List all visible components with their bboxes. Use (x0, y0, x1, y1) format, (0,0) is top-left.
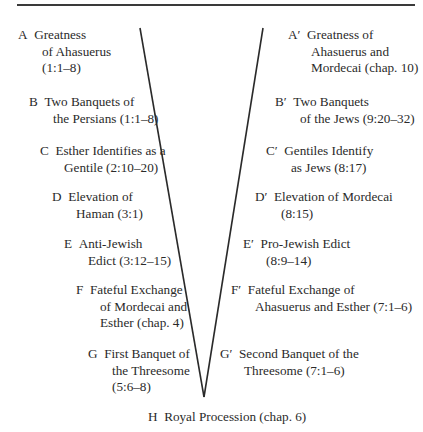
chiasm-item-E: E Anti-Jewish Edict (3:12–15) (64, 236, 171, 269)
item-title: Fateful Exchange (90, 282, 183, 297)
item-letter: D (52, 189, 62, 206)
item-letter: F (76, 282, 83, 299)
chiasm-item-F-prime: F′ Fateful Exchange of Ahasuerus and Est… (231, 282, 412, 315)
item-title: Two Banquets (293, 94, 369, 109)
item-letter: E′ (243, 236, 254, 253)
item-line2: the Persians (1:1–8) (29, 111, 158, 128)
item-letter: G (88, 346, 98, 363)
chiasm-item-F: F Fateful Exchange of Mordecai and Esthe… (76, 282, 187, 332)
item-reference: Esther (chap. 4) (76, 315, 187, 332)
chiasm-item-D-prime: D′ Elevation of Mordecai (8:15) (255, 189, 393, 222)
item-line2: Edict (3:12–15) (64, 253, 171, 270)
item-title: Anti-Jewish (79, 236, 143, 251)
item-line2: Haman (3:1) (52, 206, 143, 223)
item-title: Esther Identifies as a (55, 143, 165, 158)
item-reference: Mordecai (chap. 10) (288, 60, 418, 77)
item-line2: of Mordecai and (76, 299, 187, 316)
item-reference: (8:9–14) (243, 253, 350, 270)
item-title: Second Banquet of the (239, 346, 359, 361)
chiasm-item-G-prime: G′ Second Banquet of the Threesome (7:1–… (220, 346, 359, 379)
chiasm-item-A-prime: A′ Greatness of Ahasuerus and Mordecai (… (288, 27, 418, 77)
item-letter: B′ (275, 94, 287, 111)
chiasm-item-C: C Esther Identifies as a Gentile (2:10–2… (40, 143, 166, 176)
item-line2: Gentile (2:10–20) (40, 160, 166, 177)
item-letter: E (64, 236, 72, 253)
item-line2: of Ahasuerus (18, 44, 111, 61)
item-title: Royal Procession (chap. 6) (164, 409, 306, 424)
chiasm-item-C-prime: C′ Gentiles Identify as Jews (8:17) (266, 143, 373, 176)
item-title: Gentiles Identify (284, 143, 373, 158)
item-title: Pro-Jewish Edict (261, 236, 351, 251)
item-letter: G′ (220, 346, 232, 363)
item-title: Greatness (34, 27, 86, 42)
item-title: First Banquet of (104, 346, 190, 361)
item-letter: B (29, 94, 38, 111)
item-letter: A (18, 27, 28, 44)
item-title: Fateful Exchange of (248, 282, 355, 297)
item-letter: H (148, 409, 158, 426)
item-line2: as Jews (8:17) (266, 160, 373, 177)
item-letter: D′ (255, 189, 267, 206)
item-reference: (5:6–8) (88, 379, 190, 396)
item-title: Elevation of Mordecai (274, 189, 393, 204)
chiasm-item-H-center: H Royal Procession (chap. 6) (148, 409, 306, 426)
chiasm-item-D: D Elevation of Haman (3:1) (52, 189, 143, 222)
left-arm-line (140, 28, 204, 397)
item-title: Greatness of (307, 27, 373, 42)
item-line2: Ahasuerus and (288, 44, 418, 61)
item-reference: (8:15) (255, 206, 393, 223)
item-title: Two Banquets of (44, 94, 134, 109)
item-line2: Ahasuerus and Esther (7:1–6) (231, 299, 412, 316)
item-line2: Threesome (7:1–6) (220, 363, 359, 380)
item-letter: F′ (231, 282, 241, 299)
chiasm-item-E-prime: E′ Pro-Jewish Edict (8:9–14) (243, 236, 350, 269)
item-title: Elevation of (68, 189, 133, 204)
chiasm-item-A: A Greatness of Ahasuerus (1:1–8) (18, 27, 111, 77)
item-letter: C (40, 143, 49, 160)
item-letter: A′ (288, 27, 300, 44)
item-reference: (1:1–8) (18, 60, 111, 77)
item-line2: of the Jews (9:20–32) (275, 111, 415, 128)
chiasm-item-G: G First Banquet of the Threesome (5:6–8) (88, 346, 190, 396)
item-letter: C′ (266, 143, 278, 160)
item-line2: the Threesome (88, 363, 190, 380)
chiasm-item-B-prime: B′ Two Banquets of the Jews (9:20–32) (275, 94, 415, 127)
chiasm-item-B: B Two Banquets of the Persians (1:1–8) (29, 94, 158, 127)
